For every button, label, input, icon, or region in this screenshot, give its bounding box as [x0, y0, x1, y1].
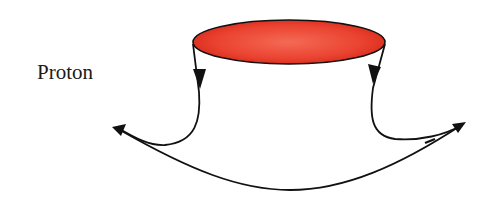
- left-down-arrow-icon: [193, 69, 206, 89]
- right-flow-line: [372, 44, 462, 139]
- left-end-arrow-icon: [112, 124, 126, 136]
- left-flow-line: [118, 44, 199, 145]
- bottom-flow-curve: [120, 126, 460, 190]
- proton-flow-diagram: [0, 0, 486, 201]
- proton-ellipse: [193, 20, 385, 64]
